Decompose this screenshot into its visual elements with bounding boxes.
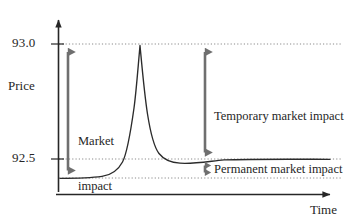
market-impact-label-line1: Market (78, 134, 114, 149)
y-tick-label-92-5: 92.5 (12, 151, 36, 165)
y-axis-label: Price (8, 79, 35, 93)
market-impact-figure: 93.0 92.5 Price Time Market impact Tempo… (0, 0, 357, 224)
x-axis-label: Time (310, 203, 337, 217)
permanent-market-impact-label: Permanent market impact (214, 163, 342, 177)
market-impact-label: Market impact (78, 103, 114, 224)
y-tick-label-93: 93.0 (12, 36, 36, 50)
market-impact-label-line2: impact (78, 179, 114, 194)
temporary-market-impact-label: Temporary market impact (214, 110, 344, 124)
